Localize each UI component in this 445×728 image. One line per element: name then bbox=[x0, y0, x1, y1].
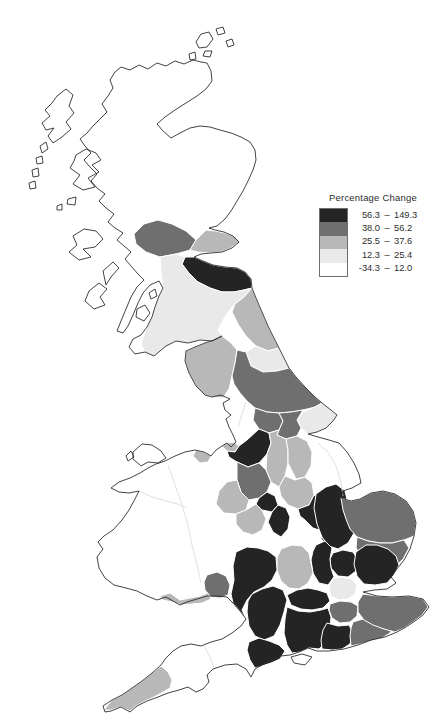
land-lewis-harris bbox=[42, 89, 74, 143]
legend-title: Percentage Change bbox=[329, 192, 417, 203]
region-oxfordshire bbox=[277, 545, 313, 589]
legend: Percentage Change 56.3–149.338.0–56.225.… bbox=[306, 192, 417, 277]
legend-min-3: 12.3 bbox=[355, 250, 380, 260]
legend-max-3: 25.4 bbox=[394, 250, 412, 260]
legend-max-4: 12.0 bbox=[394, 263, 412, 273]
legend-max-0: 149.3 bbox=[394, 210, 417, 220]
legend-dash-4: – bbox=[380, 263, 394, 273]
legend-swatch-1 bbox=[320, 222, 347, 235]
choropleth-figure bbox=[0, 0, 445, 728]
legend-class-label-2: 25.5–37.6 bbox=[355, 235, 417, 248]
legend-labels: 56.3–149.338.0–56.225.5–37.612.3–25.4-34… bbox=[355, 208, 417, 275]
region-cornwall bbox=[104, 666, 172, 711]
region-gwent bbox=[204, 572, 230, 598]
legend-dash-2: – bbox=[380, 236, 394, 246]
land-arran bbox=[136, 305, 150, 321]
legend-min-4: -34.3 bbox=[355, 263, 380, 273]
legend-swatch-4 bbox=[320, 263, 347, 276]
legend-max-1: 56.2 bbox=[394, 223, 412, 233]
legend-color-bar bbox=[319, 208, 348, 277]
legend-class-label-3: 12.3–25.4 bbox=[355, 248, 417, 261]
legend-swatch-3 bbox=[320, 249, 347, 262]
legend-dash-1: – bbox=[380, 223, 394, 233]
legend-swatch-0 bbox=[320, 209, 347, 222]
legend-dash-0: – bbox=[380, 210, 394, 220]
legend-body: 56.3–149.338.0–56.225.5–37.612.3–25.4-34… bbox=[319, 208, 417, 277]
legend-min-2: 25.5 bbox=[355, 236, 380, 246]
legend-dash-3: – bbox=[380, 250, 394, 260]
legend-min-1: 38.0 bbox=[355, 223, 380, 233]
legend-class-label-1: 38.0–56.2 bbox=[355, 221, 417, 234]
legend-min-0: 56.3 bbox=[355, 210, 380, 220]
gb-map bbox=[0, 0, 445, 728]
region-cumbria bbox=[185, 336, 237, 398]
legend-max-2: 37.6 bbox=[394, 236, 412, 246]
legend-swatch-2 bbox=[320, 236, 347, 249]
legend-class-label-4: -34.3–12.0 bbox=[355, 262, 417, 275]
legend-class-label-0: 56.3–149.3 bbox=[355, 208, 417, 221]
